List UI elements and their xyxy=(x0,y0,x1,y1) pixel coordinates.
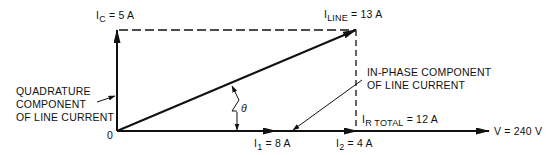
value: = 8 A xyxy=(265,137,290,149)
quadrature-annotation-line2: COMPONENT xyxy=(16,98,114,111)
i2-label: I2 = 4 A xyxy=(336,137,373,154)
inphase-annotation-line2: OF LINE CURRENT xyxy=(367,79,491,92)
inphase-leader xyxy=(293,80,362,130)
subscript: R TOTAL xyxy=(365,118,403,128)
quadrature-current-label: IC = 5 A xyxy=(96,9,134,26)
value: = 13 A xyxy=(351,8,382,20)
line-current-label: ILINE = 13 A xyxy=(324,8,382,25)
value: = 4 A xyxy=(347,137,372,149)
theta-bracket xyxy=(232,100,239,111)
quadrature-annotation-line1: QUADRATURE xyxy=(16,85,114,98)
subscript: LINE xyxy=(327,13,348,23)
subscript: 2 xyxy=(339,142,344,152)
i1-label: I1 = 8 A xyxy=(254,137,291,154)
theta-label: θ xyxy=(241,102,247,115)
subscript: 1 xyxy=(257,142,262,152)
voltage-label: V = 240 V xyxy=(494,125,542,138)
value: = 5 A xyxy=(109,9,134,21)
value: = 12 A xyxy=(407,113,438,125)
quadrature-annotation-line3: OF LINE CURRENT xyxy=(16,111,114,124)
theta-upper-arrow xyxy=(232,86,239,100)
subscript: C xyxy=(99,14,106,24)
inphase-annotation-line1: IN-PHASE COMPONENT xyxy=(367,66,491,79)
r-total-label: IR TOTAL = 12 A xyxy=(362,113,438,130)
inphase-annotation: IN-PHASE COMPONENT OF LINE CURRENT xyxy=(367,66,491,92)
origin-label: 0 xyxy=(107,129,113,142)
quadrature-annotation: QUADRATURE COMPONENT OF LINE CURRENT xyxy=(16,85,114,124)
